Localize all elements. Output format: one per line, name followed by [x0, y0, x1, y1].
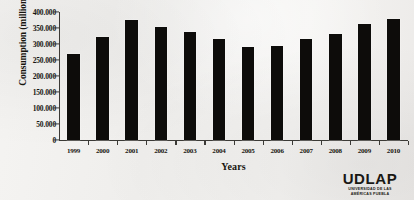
bar	[387, 19, 400, 140]
udlap-wordmark: UDLAP	[332, 171, 408, 186]
x-axis-tick-mark	[263, 141, 264, 145]
x-axis-tick-label: 2008	[329, 147, 342, 155]
y-axis-tick-label: 0	[10, 136, 56, 145]
y-axis-tick-label: 350.000	[10, 24, 56, 33]
bar	[184, 32, 197, 140]
bar-chart-figure: Consumption (millions of ft3) 050.000100…	[0, 0, 414, 200]
x-axis-tick-mark	[146, 141, 147, 145]
y-axis-tick-mark	[54, 107, 59, 108]
y-axis-tick-mark	[54, 91, 59, 92]
x-axis-tick-mark	[350, 141, 351, 145]
bar	[67, 54, 80, 140]
x-axis-tick-label: 2006	[271, 147, 284, 155]
udlap-logo: UDLAP UNIVERSIDAD DE LAS AMÉRICAS PUEBLA	[332, 171, 408, 197]
x-axis-tick-mark	[234, 141, 235, 145]
bar	[242, 47, 255, 140]
bar	[271, 46, 284, 140]
x-axis-tick-mark	[408, 141, 409, 145]
x-axis-tick-mark	[175, 141, 176, 145]
x-axis-tick-mark	[117, 141, 118, 145]
x-axis-tick-mark	[204, 141, 205, 145]
y-axis-tick-mark	[54, 139, 59, 140]
y-axis-tick-labels: 050.000100.000150.000200.000250.000300.0…	[12, 0, 56, 200]
y-axis-tick-label: 50.000	[10, 120, 56, 129]
x-axis-tick-mark	[292, 141, 293, 145]
x-axis-tick-label: 2001	[125, 147, 138, 155]
y-axis-tick-label: 100.000	[10, 104, 56, 113]
y-axis-tick-label: 400.000	[10, 8, 56, 17]
x-axis-tick-label: 2004	[212, 147, 225, 155]
y-axis-tick-label: 300.000	[10, 40, 56, 49]
bar	[96, 37, 109, 140]
y-axis-tick-mark	[54, 43, 59, 44]
bar	[125, 20, 138, 140]
y-axis-tick-mark	[54, 27, 59, 28]
x-axis-tick-label: 2005	[241, 147, 254, 155]
x-axis-tick-label: 2002	[154, 147, 167, 155]
x-axis-tick-mark	[321, 141, 322, 145]
y-axis-tick-mark	[54, 59, 59, 60]
y-axis-tick-mark	[54, 123, 59, 124]
y-axis-tick-label: 200.000	[10, 72, 56, 81]
bar	[300, 39, 313, 140]
y-axis-tick-mark	[54, 11, 59, 12]
x-axis-tick-mark	[379, 141, 380, 145]
bar	[155, 27, 168, 140]
x-axis-tick-label: 2003	[183, 147, 196, 155]
x-axis-tick-label: 2010	[387, 147, 400, 155]
x-axis-tick-label: 2007	[300, 147, 313, 155]
udlap-subtitle-line2: AMÉRICAS PUEBLA	[332, 192, 408, 197]
x-axis-tick-mark	[88, 141, 89, 145]
bar	[213, 39, 226, 140]
y-axis-tick-mark	[54, 75, 59, 76]
x-axis-tick-label: 1999	[67, 147, 80, 155]
y-axis-tick-label: 150.000	[10, 88, 56, 97]
bar	[358, 24, 371, 140]
x-axis-tick-label: 2009	[358, 147, 371, 155]
bar	[329, 34, 342, 140]
plot-area: Consumption (millions of ft3) 050.000100…	[0, 0, 414, 200]
y-axis-line	[59, 12, 60, 141]
x-axis-tick-label: 2000	[96, 147, 109, 155]
y-axis-tick-label: 250.000	[10, 56, 56, 65]
